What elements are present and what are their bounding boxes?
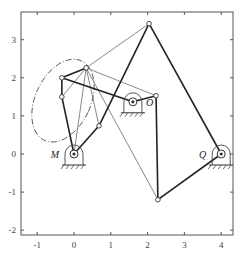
- joint-F: [156, 197, 161, 202]
- pivot-pin: [72, 152, 75, 155]
- ground-hatch: [223, 165, 226, 169]
- thick-link-F-Q: [158, 154, 221, 200]
- joint-T: [147, 21, 152, 26]
- pivot-label-O: O: [146, 97, 153, 108]
- thick-link-T-Q: [149, 24, 221, 154]
- x-tick-label: 0: [72, 240, 77, 250]
- ground-hatch: [120, 113, 123, 117]
- x-tick-label: 3: [182, 240, 187, 250]
- ground-hatch: [61, 165, 64, 169]
- ground-hatch: [66, 165, 69, 169]
- pivot-label-Q: Q: [199, 149, 207, 160]
- ground-hatch: [228, 165, 231, 169]
- ground-hatch: [130, 113, 133, 117]
- ground-hatch: [213, 165, 216, 169]
- joint-D: [154, 93, 159, 98]
- joint-C: [60, 95, 65, 100]
- y-tick-label: 3: [12, 35, 17, 45]
- ground-hatch: [140, 113, 143, 117]
- ground-hatch: [218, 165, 221, 169]
- ground-hatch: [71, 165, 74, 169]
- ground-hatch: [208, 165, 211, 169]
- ground-hatch: [135, 113, 138, 117]
- y-tick-label: 0: [12, 149, 17, 159]
- x-tick-label: 2: [145, 240, 150, 250]
- thin-link-B-T: [86, 24, 149, 68]
- thin-link-B-F: [86, 68, 158, 200]
- joint-E: [97, 124, 102, 129]
- thick-link-A-O: [62, 78, 133, 102]
- thick-link-A-B: [62, 68, 86, 78]
- x-tick-label: 4: [219, 240, 224, 250]
- thick-link-D-F: [156, 96, 158, 200]
- pivot-label-M: M: [50, 149, 60, 160]
- y-tick-label: -1: [9, 187, 17, 197]
- ground-hatch: [125, 113, 128, 117]
- x-tick-label: -1: [33, 240, 41, 250]
- joint-B: [84, 66, 89, 71]
- pivot-M: M: [50, 145, 86, 169]
- pivot-pin: [131, 100, 134, 103]
- mechanism-plot: -101234-2-10123 MOQ: [0, 0, 243, 257]
- thin-link-B-M: [74, 68, 86, 154]
- thick-link-M-E: [74, 126, 99, 154]
- ground-hatch: [81, 165, 84, 169]
- joint-A: [60, 76, 65, 81]
- pivot-O: O: [120, 93, 153, 117]
- y-tick-label: 1: [12, 111, 17, 121]
- y-tick-label: 2: [12, 73, 17, 83]
- plot-frame: [21, 12, 233, 235]
- x-tick-label: 1: [109, 240, 114, 250]
- ground-hatch: [76, 165, 79, 169]
- y-tick-label: -2: [9, 225, 17, 235]
- pivot-pin: [220, 152, 223, 155]
